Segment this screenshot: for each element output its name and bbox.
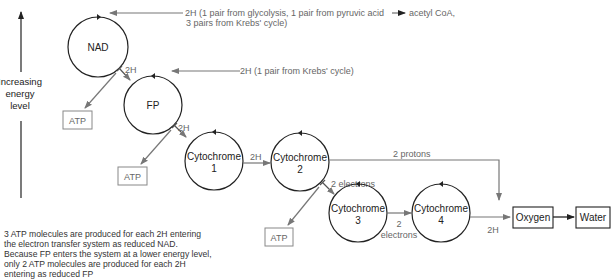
nad-label: NAD bbox=[87, 42, 108, 53]
nad-fp-label: 2H bbox=[125, 65, 137, 75]
fp-input: 2H (1 pair from Krebs' cycle) bbox=[172, 66, 354, 76]
fp-cyt1-label: 2H bbox=[178, 123, 190, 133]
edge-nad-fp: 2H bbox=[85, 65, 137, 108]
cyt2-atp-arrow bbox=[288, 187, 319, 225]
cytochrome-3-number: 3 bbox=[355, 215, 361, 226]
atp-box-3: ATP bbox=[265, 228, 293, 246]
fp-atp-arrow bbox=[141, 130, 171, 164]
cytochrome-2-label: Cytochrome bbox=[273, 152, 327, 163]
cyt4-oxygen-label: 2H bbox=[487, 225, 499, 235]
cytochrome-4-label: Cytochrome bbox=[414, 203, 468, 214]
cyt3-cyt4-label-line1: 2 bbox=[396, 219, 401, 229]
fp-node: FP bbox=[124, 73, 182, 134]
note-line-4: only 2 ATP molecules are produced for ea… bbox=[4, 259, 244, 269]
cytochrome-1-label: Cytochrome bbox=[187, 151, 241, 162]
cytochrome-2-node: Cytochrome 2 bbox=[271, 130, 329, 191]
cytochrome-1-node: Cytochrome 1 bbox=[185, 129, 243, 190]
oxygen-node: Oxygen bbox=[513, 207, 553, 228]
edge-cyt4-oxygen: 2H bbox=[470, 217, 510, 235]
axis-label-line2: energy bbox=[5, 88, 34, 99]
nad-source-suffix: acetyl CoA, bbox=[409, 8, 455, 18]
axis-label-line1: Increasing bbox=[0, 76, 42, 87]
water-label: Water bbox=[580, 212, 607, 223]
edge-cyt2-oxygen: 2 protons bbox=[329, 149, 499, 200]
cyt3-cyt4-label-line2: electrons bbox=[381, 230, 418, 240]
nad-atp-arrow bbox=[85, 73, 116, 108]
edge-cyt1-cyt2: 2H bbox=[243, 152, 270, 163]
cytochrome-1-number: 1 bbox=[211, 163, 217, 174]
oxygen-label: Oxygen bbox=[516, 212, 550, 223]
note-line-2: the electron transfer system as reduced … bbox=[4, 239, 244, 249]
cytochrome-1-cycle-arrow-icon bbox=[212, 129, 216, 135]
atp-label-3: ATP bbox=[271, 233, 288, 243]
energy-axis: Increasing energy level bbox=[0, 12, 42, 198]
fp-cycle-arrow-icon bbox=[151, 73, 155, 79]
atp-label-2: ATP bbox=[124, 172, 141, 182]
atp-label-1: ATP bbox=[69, 116, 86, 126]
water-node: Water bbox=[576, 207, 610, 228]
atp-box-2: ATP bbox=[118, 167, 147, 185]
cytochrome-4-cycle-arrow-icon bbox=[439, 181, 443, 187]
cytochrome-4-number: 4 bbox=[438, 215, 444, 226]
cyt1-cyt2-label: 2H bbox=[250, 152, 262, 162]
nad-cycle-arrow-icon bbox=[97, 14, 101, 20]
note-line-5: entering as reduced FP bbox=[4, 269, 244, 279]
cytochrome-2-cycle-arrow-icon bbox=[298, 130, 302, 136]
atp-box-1: ATP bbox=[63, 111, 92, 129]
atp-yield-note: 3 ATP molecules are produced for each 2H… bbox=[4, 229, 244, 279]
cytochrome-2-number: 2 bbox=[297, 164, 303, 175]
cytochrome-4-node: Cytochrome 4 bbox=[412, 181, 470, 242]
axis-label-line3: level bbox=[10, 100, 30, 111]
fp-source-label: 2H (1 pair from Krebs' cycle) bbox=[240, 66, 354, 76]
note-line-1: 3 ATP molecules are produced for each 2H… bbox=[4, 229, 244, 239]
note-line-3: Because FP enters the system at a lower … bbox=[4, 249, 244, 259]
nad-node: NAD bbox=[68, 14, 128, 77]
nad-source-line1: 2H (1 pair from glycolysis, 1 pair from … bbox=[185, 8, 384, 18]
nad-source-line2: 3 pairs from Krebs' cycle) bbox=[186, 18, 287, 28]
cyt2-oxygen-label: 2 protons bbox=[393, 149, 431, 159]
nad-input: 2H (1 pair from glycolysis, 1 pair from … bbox=[110, 8, 455, 28]
fp-label: FP bbox=[147, 100, 160, 111]
cytochrome-3-node: Cytochrome 3 bbox=[329, 181, 387, 242]
edge-fp-cyt1: 2H bbox=[141, 123, 190, 164]
cytochrome-3-label: Cytochrome bbox=[331, 203, 385, 214]
